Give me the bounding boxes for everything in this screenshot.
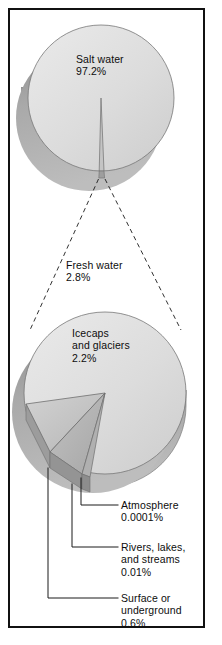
magnification-connector — [30, 179, 181, 330]
top-pie-fresh-water-slice-depth — [99, 171, 105, 178]
label-rivers-lakes-streams: Rivers, lakes, and streams 0.01% — [121, 541, 185, 578]
label-salt-water: Salt water 97.2% — [76, 53, 124, 78]
label-atmosphere: Atmosphere 0.0001% — [121, 499, 179, 524]
pie-chart-artwork — [0, 0, 222, 645]
top-pie-all-water — [16, 25, 174, 191]
label-surface-or-underground: Surface or underground 0.6% — [121, 592, 182, 629]
leader-line-rivers — [72, 484, 118, 547]
label-icecaps-and-glaciers: Icecaps and glaciers 2.2% — [72, 327, 130, 364]
water-distribution-figure: Salt water 97.2% Fresh water 2.8% Icecap… — [0, 0, 222, 645]
label-fresh-water: Fresh water 2.8% — [66, 259, 123, 284]
bottom-pie-atmosphere-depth — [82, 474, 90, 492]
